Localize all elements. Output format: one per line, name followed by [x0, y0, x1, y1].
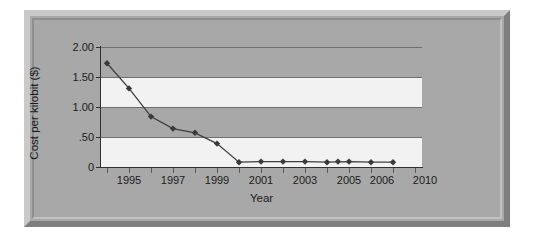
data-series-line — [0, 0, 533, 243]
data-point-marker — [258, 158, 264, 164]
series-polyline — [107, 63, 393, 162]
data-point-marker — [390, 159, 396, 165]
data-point-marker — [192, 130, 198, 136]
data-point-marker — [280, 158, 286, 164]
data-point-marker — [335, 158, 341, 164]
data-point-marker — [324, 159, 330, 165]
data-point-marker — [302, 158, 308, 164]
data-point-marker — [346, 158, 352, 164]
data-point-marker — [170, 125, 176, 131]
data-point-marker — [368, 159, 374, 165]
chart-screenshot: 2.00 1.50 1.00 .50 0 1995 1997 1999 2001… — [0, 0, 533, 243]
